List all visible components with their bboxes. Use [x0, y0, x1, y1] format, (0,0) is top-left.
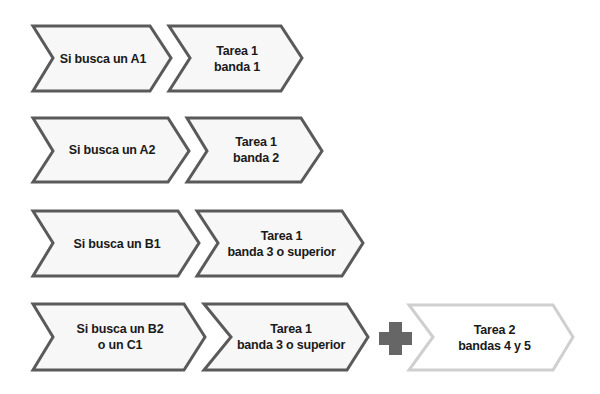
- task-label-row3: Tarea 1 banda 3 o superior: [218, 211, 345, 276]
- task-label-row1: Tarea 1 banda 1: [190, 26, 284, 91]
- level-label-b2-c1: Si busca un B2 o un C1: [53, 304, 187, 370]
- task-label-row2: Tarea 1 banda 2: [207, 118, 305, 182]
- plus-icon: [379, 322, 412, 355]
- level-label-a1: Si busca un A1: [53, 26, 153, 91]
- task2-label: Tarea 2 bandas 4 y 5: [433, 305, 556, 370]
- level-label-a2: Si busca un A2: [53, 118, 171, 182]
- task-label-row4: Tarea 1 banda 3 o superior: [231, 304, 351, 370]
- level-label-b1: Si busca un B1: [53, 211, 181, 276]
